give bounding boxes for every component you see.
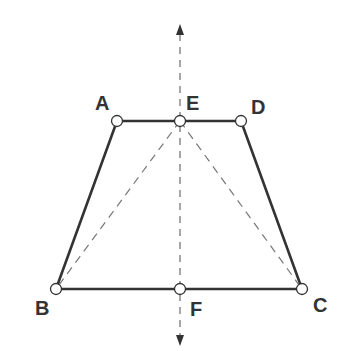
diagram-canvas: AEDBFC [0,0,344,351]
vertex-points [51,116,308,295]
point-E [175,116,186,127]
label-E: E [186,92,199,114]
label-F: F [190,298,202,320]
label-D: D [251,96,265,118]
point-B [51,284,62,295]
side-DC [241,121,302,289]
symmetry-axis [176,24,184,346]
dashed-segment-EC [180,121,302,289]
point-C [297,284,308,295]
arrow-up-icon [176,24,184,35]
side-AB [56,121,117,289]
point-F [175,284,186,295]
point-A [112,116,123,127]
label-C: C [313,294,327,316]
label-B: B [35,297,49,319]
dashed-segment-EB [56,121,180,289]
point-D [236,116,247,127]
dashed-diagonals [56,121,302,289]
label-A: A [95,92,109,114]
trapezoid-sides [56,121,302,289]
trapezoid-diagram: AEDBFC [0,0,344,351]
arrow-down-icon [176,335,184,346]
